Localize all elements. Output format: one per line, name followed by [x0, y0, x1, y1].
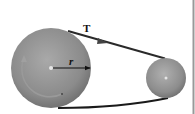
radius-label: r: [69, 55, 74, 67]
arc-end-dot: [61, 93, 63, 95]
tension-label: T: [83, 22, 91, 34]
small-pulley-hub: [165, 77, 168, 80]
large-pulley-hub: [49, 66, 53, 70]
pulley-diagram: r T: [0, 0, 195, 114]
